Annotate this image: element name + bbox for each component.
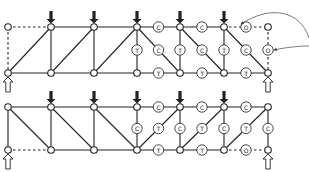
truss-joint (48, 104, 55, 111)
tension-label: T (241, 123, 251, 133)
truss-joint (5, 104, 12, 111)
truss-member (8, 27, 51, 73)
svg-text:C: C (244, 104, 248, 111)
truss-joint (265, 24, 272, 31)
load-arrow-icon (220, 11, 229, 24)
svg-text:O: O (244, 24, 249, 31)
compression-label: C (241, 102, 251, 112)
compression-label: C (263, 123, 273, 133)
tension-label: T (197, 68, 207, 78)
compression-label: C (153, 22, 163, 32)
truss-joint (177, 70, 184, 77)
truss-joint (221, 70, 228, 77)
svg-text:T: T (156, 70, 161, 77)
truss-joint (265, 104, 272, 111)
svg-text:C: C (156, 47, 160, 54)
support-reaction-icon (263, 154, 273, 169)
support-reaction-icon (3, 154, 13, 169)
truss-joint (48, 147, 55, 154)
truss-joint (48, 70, 55, 77)
truss-joint (91, 104, 98, 111)
truss-member (94, 107, 137, 150)
load-arrow-icon (90, 91, 99, 104)
svg-text:C: C (156, 104, 160, 111)
truss-joint (134, 147, 141, 154)
truss-joint (221, 147, 228, 154)
compression-label: C (132, 123, 142, 133)
truss-joint (5, 147, 12, 154)
tension-label: T (153, 68, 163, 78)
svg-text:C: C (200, 104, 204, 111)
tension-label: T (132, 45, 142, 55)
truss-joint (134, 104, 141, 111)
svg-text:C: C (266, 125, 270, 132)
truss-joint (177, 147, 184, 154)
truss-bottom: CCCTTCCCCTTTO (3, 91, 273, 169)
load-arrow-icon (176, 11, 185, 24)
load-arrow-icon (133, 11, 142, 24)
truss-joint (48, 24, 55, 31)
svg-text:T: T (221, 47, 226, 54)
load-arrow-icon (47, 91, 56, 104)
truss-member (8, 107, 51, 150)
compression-label: C (197, 102, 207, 112)
svg-text:T: T (156, 125, 161, 132)
truss-joint (177, 24, 184, 31)
compression-label: C (153, 45, 163, 55)
zero-force-label: O (263, 45, 273, 55)
svg-text:T: T (243, 70, 248, 77)
svg-text:T: T (134, 47, 139, 54)
truss-joint (221, 24, 228, 31)
compression-label: C (175, 123, 185, 133)
tension-label: T (197, 123, 207, 133)
truss-diagram: CCTTTTTTCCCOOCCCTTCCCCTTTO (0, 0, 309, 172)
truss-joint (5, 70, 12, 77)
truss-joint (134, 70, 141, 77)
svg-text:T: T (156, 147, 161, 154)
compression-label: C (197, 22, 207, 32)
truss-joint (177, 104, 184, 111)
svg-text:C: C (135, 125, 139, 132)
svg-text:C: C (244, 47, 248, 54)
support-reaction-icon (3, 77, 13, 92)
truss-top: CCTTTTTTCCCOO (3, 11, 273, 92)
truss-joint (91, 24, 98, 31)
support-reaction-icon (263, 77, 273, 92)
zero-force-label: O (241, 145, 251, 155)
svg-text:C: C (178, 125, 182, 132)
compression-label: C (241, 45, 251, 55)
truss-joint (265, 147, 272, 154)
tension-label: T (241, 68, 251, 78)
compression-label: C (219, 123, 229, 133)
truss-member (51, 107, 94, 150)
trusses: CCTTTTTTCCCOOCCCTTCCCCTTTO (3, 11, 309, 169)
svg-text:C: C (222, 125, 226, 132)
svg-text:C: C (200, 24, 204, 31)
truss-member (94, 27, 137, 73)
truss-joint (91, 70, 98, 77)
tension-label: T (219, 45, 229, 55)
tension-label: T (153, 145, 163, 155)
svg-text:C: C (156, 24, 160, 31)
tension-label: T (197, 145, 207, 155)
svg-text:T: T (177, 47, 182, 54)
annotation-arrow-icon (274, 46, 309, 50)
truss-joint (5, 24, 12, 31)
svg-text:T: T (199, 70, 204, 77)
svg-text:T: T (199, 125, 204, 132)
svg-text:O: O (266, 47, 271, 54)
truss-joint (221, 104, 228, 111)
annotations (241, 13, 309, 50)
load-arrow-icon (90, 11, 99, 24)
truss-joint (265, 70, 272, 77)
compression-label: C (197, 45, 207, 55)
tension-label: T (153, 123, 163, 133)
truss-joint (91, 147, 98, 154)
load-arrow-icon (220, 91, 229, 104)
load-arrow-icon (133, 91, 142, 104)
tension-label: T (175, 45, 185, 55)
load-arrow-icon (47, 11, 56, 24)
svg-text:T: T (243, 125, 248, 132)
truss-joint (134, 24, 141, 31)
svg-text:C: C (200, 47, 204, 54)
